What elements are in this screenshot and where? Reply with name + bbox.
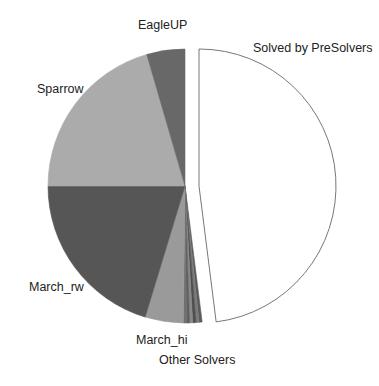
label-march-rw: March_rw bbox=[29, 280, 84, 294]
label-presolvers: Solved by PreSolvers bbox=[253, 41, 373, 55]
pie-slices bbox=[48, 49, 336, 323]
label-sparrow: Sparrow bbox=[37, 82, 84, 96]
pie-chart bbox=[0, 0, 379, 386]
label-march-hi: March_hi bbox=[136, 333, 187, 347]
label-other-solvers: Other Solvers bbox=[159, 353, 235, 367]
slice-solved-by-presolvers bbox=[199, 49, 336, 322]
label-eagleup: EagleUP bbox=[138, 18, 187, 32]
